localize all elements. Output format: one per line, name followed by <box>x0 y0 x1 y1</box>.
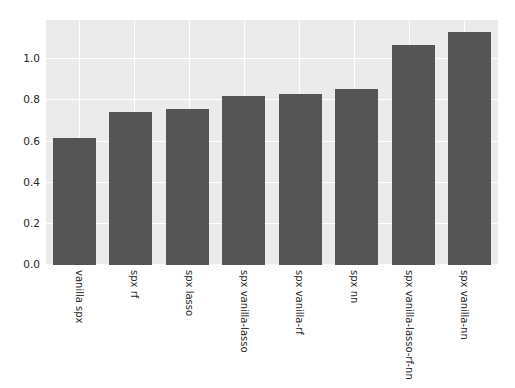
y-tick-label-3: 0.6 <box>0 136 40 147</box>
bar-7 <box>448 32 491 265</box>
bar-5 <box>335 89 378 265</box>
x-tick-label-1: spx rf <box>129 270 139 298</box>
x-tick-label-4: spx vanilla-rf <box>294 270 304 335</box>
x-tick-label-3: spx vanilla-lasso <box>239 270 249 353</box>
bar-4 <box>279 94 322 265</box>
x-tick-label-2: spx lasso <box>184 270 194 316</box>
x-tick-label-5: spx nn <box>349 270 359 303</box>
plot-area <box>46 20 498 265</box>
y-tick-label-5: 1.0 <box>0 53 40 64</box>
x-axis: vanilla spx spx rf spx lasso spx vanilla… <box>46 265 498 388</box>
x-tick-label-7: spx vanilla-nn <box>459 270 469 340</box>
x-tick-label-6: spx vanilla-lasso-rf-nn <box>404 270 414 380</box>
bar-3 <box>222 96 265 265</box>
bar-2 <box>166 109 209 265</box>
y-axis: 0.0 0.2 0.4 0.6 0.8 1.0 <box>0 0 40 388</box>
bar-chart-figure: 0.0 0.2 0.4 0.6 0.8 1.0 vanil <box>0 0 515 388</box>
bar-6 <box>392 45 435 265</box>
bar-1 <box>109 112 152 265</box>
bar-0 <box>53 138 96 265</box>
y-tick-label-0: 0.0 <box>0 259 40 270</box>
x-tick-label-0: vanilla spx <box>74 270 84 324</box>
y-tick-label-1: 0.2 <box>0 218 40 229</box>
y-tick-label-4: 0.8 <box>0 94 40 105</box>
y-tick-label-2: 0.4 <box>0 177 40 188</box>
